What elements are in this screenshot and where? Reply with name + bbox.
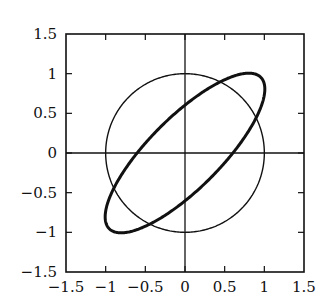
y-tick-label: 1 — [47, 65, 57, 83]
y-tick-label: −1.5 — [21, 263, 57, 281]
x-tick-label: 0 — [180, 278, 190, 296]
y-tick-label: 0 — [47, 144, 57, 162]
y-tick-label: −0.5 — [21, 184, 57, 202]
y-tick-label: 0.5 — [33, 104, 57, 122]
x-tick-label: −1 — [95, 278, 117, 296]
plot-area — [66, 34, 304, 272]
x-tick-label: 0.5 — [213, 278, 237, 296]
chart: −1.5−1−0.500.511.5 1.510.50−0.5−1−1.5 — [0, 0, 328, 306]
x-tick-label: 1.5 — [292, 278, 316, 296]
y-tick-label: −1 — [35, 223, 57, 241]
x-tick-label: −0.5 — [127, 278, 163, 296]
y-tick-label: 1.5 — [33, 25, 57, 43]
x-tick-label: 1 — [260, 278, 270, 296]
